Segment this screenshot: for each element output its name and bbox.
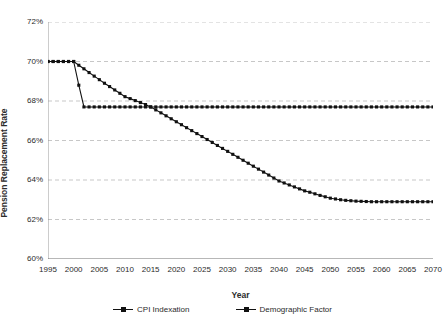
series-marker-1 — [401, 200, 404, 203]
series-marker-0 — [267, 105, 270, 108]
series-marker-1 — [226, 150, 229, 153]
series-marker-0 — [257, 105, 260, 108]
series-marker-1 — [154, 108, 157, 111]
series-marker-0 — [396, 105, 399, 108]
series-marker-0 — [283, 105, 286, 108]
series-marker-0 — [129, 105, 132, 108]
x-tick-label: 2020 — [167, 266, 185, 274]
series-marker-1 — [360, 200, 363, 203]
x-tick-label: 2010 — [116, 266, 134, 274]
series-marker-0 — [159, 105, 162, 108]
y-tick-label: 68% — [27, 97, 43, 105]
series-marker-0 — [313, 105, 316, 108]
series-marker-0 — [349, 105, 352, 108]
series-marker-0 — [380, 105, 383, 108]
x-tick-label: 2015 — [142, 266, 160, 274]
pension-replacement-rate-chart: Pension Replacement Rate 60%62%64%66%68%… — [0, 0, 445, 325]
series-marker-1 — [175, 120, 178, 123]
x-tick-label: 2060 — [373, 266, 391, 274]
series-marker-0 — [360, 105, 363, 108]
series-marker-0 — [108, 105, 111, 108]
series-marker-0 — [390, 105, 393, 108]
series-marker-0 — [139, 105, 142, 108]
x-tick-label: 1995 — [39, 266, 57, 274]
plot-svg — [48, 22, 433, 259]
series-marker-1 — [277, 179, 280, 182]
legend-item: Demographic Factor — [236, 305, 332, 314]
series-marker-1 — [288, 183, 291, 186]
series-marker-1 — [298, 187, 301, 190]
y-tick-label: 60% — [27, 255, 43, 263]
series-marker-1 — [57, 60, 60, 63]
series-marker-0 — [247, 105, 250, 108]
series-marker-1 — [118, 92, 121, 95]
series-marker-0 — [236, 105, 239, 108]
series-marker-0 — [88, 105, 91, 108]
series-marker-0 — [123, 105, 126, 108]
series-marker-0 — [385, 105, 388, 108]
plot-area: 60%62%64%66%68%70%72% 199520002005201020… — [48, 22, 433, 259]
series-marker-1 — [267, 174, 270, 177]
series-marker-1 — [93, 75, 96, 78]
series-marker-0 — [77, 84, 80, 87]
series-marker-1 — [385, 200, 388, 203]
series-marker-0 — [411, 105, 414, 108]
series-marker-1 — [283, 181, 286, 184]
series-marker-1 — [134, 99, 137, 102]
x-tick-label: 2005 — [90, 266, 108, 274]
series-marker-0 — [277, 105, 280, 108]
series-marker-1 — [349, 199, 352, 202]
series-marker-0 — [303, 105, 306, 108]
legend-marker-icon — [236, 306, 256, 314]
series-marker-1 — [313, 192, 316, 195]
series-marker-1 — [159, 111, 162, 114]
series-marker-1 — [293, 185, 296, 188]
series-marker-1 — [365, 200, 368, 203]
series-marker-1 — [180, 123, 183, 126]
x-tick-label: 2055 — [347, 266, 365, 274]
series-marker-1 — [129, 97, 132, 100]
series-marker-1 — [67, 60, 70, 63]
series-marker-1 — [185, 126, 188, 129]
series-marker-1 — [303, 189, 306, 192]
series-marker-0 — [98, 105, 101, 108]
series-marker-1 — [339, 198, 342, 201]
series-marker-0 — [195, 105, 198, 108]
y-tick-label: 72% — [27, 18, 43, 26]
series-marker-0 — [154, 105, 157, 108]
series-marker-0 — [113, 105, 116, 108]
series-marker-0 — [118, 105, 121, 108]
series-marker-0 — [226, 105, 229, 108]
series-marker-1 — [88, 71, 91, 74]
series-marker-1 — [231, 153, 234, 156]
x-tick-label: 2070 — [424, 266, 442, 274]
legend-item: CPI Indexation — [113, 305, 189, 314]
y-tick-label: 62% — [27, 216, 43, 224]
series-marker-1 — [272, 176, 275, 179]
series-marker-0 — [421, 105, 424, 108]
series-marker-1 — [252, 165, 255, 168]
series-marker-1 — [52, 60, 55, 63]
series-marker-0 — [216, 105, 219, 108]
y-tick-label: 66% — [27, 137, 43, 145]
series-marker-1 — [329, 197, 332, 200]
series-marker-0 — [170, 105, 173, 108]
series-marker-0 — [319, 105, 322, 108]
series-marker-0 — [206, 105, 209, 108]
series-marker-1 — [247, 162, 250, 165]
y-tick-label: 64% — [27, 176, 43, 184]
series-marker-0 — [308, 105, 311, 108]
series-marker-1 — [211, 141, 214, 144]
series-marker-1 — [426, 200, 429, 203]
x-tick-label: 2045 — [296, 266, 314, 274]
series-marker-0 — [375, 105, 378, 108]
series-marker-0 — [288, 105, 291, 108]
y-tick-label: 70% — [27, 58, 43, 66]
series-marker-1 — [257, 168, 260, 171]
series-marker-1 — [262, 171, 265, 174]
series-marker-0 — [293, 105, 296, 108]
series-marker-1 — [431, 200, 433, 203]
series-marker-1 — [149, 105, 152, 108]
series-marker-1 — [236, 156, 239, 159]
series-marker-0 — [370, 105, 373, 108]
